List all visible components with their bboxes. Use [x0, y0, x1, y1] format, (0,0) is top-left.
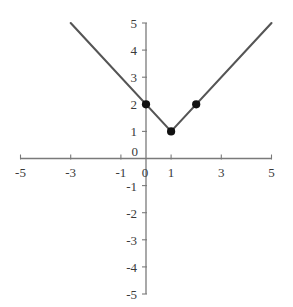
x-axis-tick-label: -5	[15, 165, 26, 180]
y-axis-tick-label: -3	[126, 233, 137, 248]
y-axis-tick-label: 3	[131, 70, 138, 85]
x-axis-tick-label: 1	[168, 165, 175, 180]
origin-label-lower: 0	[142, 165, 149, 180]
y-axis-tick-label: -5	[126, 287, 137, 302]
data-point-marker[interactable]	[167, 127, 175, 135]
x-axis-tick-label: 5	[268, 165, 275, 180]
coordinate-plane: -5-3-1135-5-4-3-2-11234500	[0, 0, 293, 307]
y-axis-tick-label: -1	[126, 179, 137, 194]
y-axis-tick-label: -4	[126, 260, 137, 275]
data-point-marker[interactable]	[142, 100, 150, 108]
y-axis-tick-label: 2	[131, 97, 138, 112]
y-axis-tick-label: 1	[131, 124, 138, 139]
x-axis-tick-label: 3	[218, 165, 225, 180]
y-axis-tick-label: 5	[131, 16, 138, 31]
y-axis-tick-label: -2	[126, 206, 137, 221]
x-axis-tick-label: -3	[65, 165, 76, 180]
graph-canvas: -5-3-1135-5-4-3-2-11234500	[0, 0, 293, 307]
data-series-line	[71, 23, 272, 131]
x-axis-tick-label: -1	[115, 165, 126, 180]
data-point-marker[interactable]	[192, 100, 200, 108]
origin-label-upper: 0	[132, 144, 139, 159]
y-axis-tick-label: 4	[131, 43, 138, 58]
